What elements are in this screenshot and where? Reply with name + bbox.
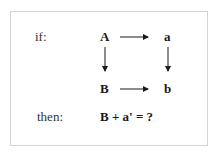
arrows [0, 0, 218, 152]
